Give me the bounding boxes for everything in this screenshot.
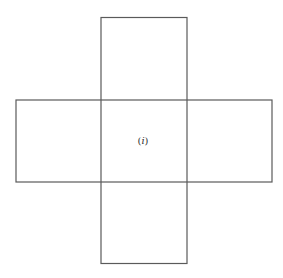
label-close-paren: ) <box>145 135 149 146</box>
center-face-label: (i) <box>123 131 163 151</box>
